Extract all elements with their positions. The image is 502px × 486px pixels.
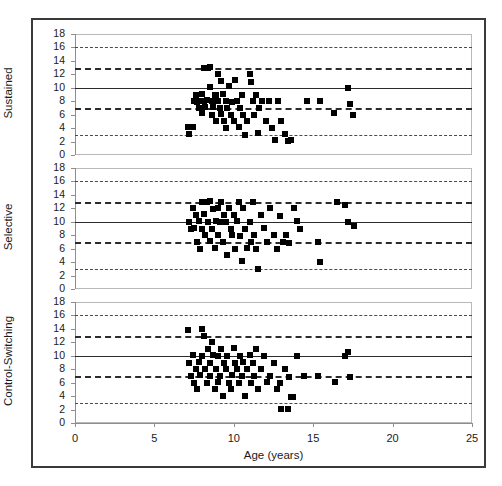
data-point <box>213 118 219 124</box>
data-point <box>290 394 296 400</box>
data-point <box>207 238 213 244</box>
y-tick-label: 16 <box>43 175 65 185</box>
data-point <box>239 258 245 264</box>
data-point <box>266 98 272 104</box>
x-axis-title: Age (years) <box>174 449 374 461</box>
y-axis-line-2 <box>75 168 76 289</box>
data-point <box>201 211 207 217</box>
data-point <box>263 118 269 124</box>
y-tick-label: 10 <box>43 216 65 226</box>
data-point <box>236 199 242 205</box>
data-point <box>204 380 210 386</box>
data-point <box>301 373 307 379</box>
data-point <box>332 379 338 385</box>
data-point <box>286 240 292 246</box>
data-point <box>224 105 230 111</box>
y-tick-label: 0 <box>43 283 65 293</box>
data-point <box>342 202 348 208</box>
y-tick <box>71 115 75 116</box>
y-tick <box>71 235 75 236</box>
data-point <box>215 205 221 211</box>
data-point <box>248 79 254 85</box>
data-point <box>250 98 256 104</box>
data-point <box>317 259 323 265</box>
data-point <box>215 98 221 104</box>
y-tick <box>71 34 75 35</box>
reference-line-3 <box>75 269 472 270</box>
data-point <box>294 353 300 359</box>
panel-label-1: Sustained <box>2 18 14 168</box>
data-point <box>199 110 205 116</box>
reference-line-10 <box>75 222 472 223</box>
y-tick-label: 14 <box>43 55 65 65</box>
data-point <box>234 218 240 224</box>
data-point <box>215 379 221 385</box>
data-point <box>223 219 229 225</box>
reference-line-7 <box>75 242 472 244</box>
y-tick <box>71 369 75 370</box>
y-tick <box>71 396 75 397</box>
x-tick-label: 5 <box>139 433 169 444</box>
data-point <box>226 205 232 211</box>
data-point <box>228 112 234 118</box>
data-point <box>218 199 224 205</box>
y-tick-label: 18 <box>43 296 65 306</box>
data-point <box>212 386 218 392</box>
data-point <box>288 137 294 143</box>
data-point <box>256 105 262 111</box>
data-point <box>240 359 246 365</box>
data-point <box>212 245 218 251</box>
reference-line-13 <box>75 336 472 338</box>
data-point <box>274 246 280 252</box>
data-point <box>282 366 288 372</box>
y-tick <box>71 155 75 156</box>
y-tick <box>71 249 75 250</box>
y-tick-label: 14 <box>43 323 65 333</box>
data-point <box>234 366 240 372</box>
reference-line-16 <box>75 47 472 48</box>
data-point <box>190 205 196 211</box>
y-tick-label: 12 <box>43 68 65 78</box>
data-point <box>215 232 221 238</box>
y-tick-label: 12 <box>43 336 65 346</box>
x-tick-label: 10 <box>219 433 249 444</box>
data-point <box>286 374 292 380</box>
x-tick <box>154 423 155 427</box>
data-point <box>202 104 208 110</box>
data-point <box>345 219 351 225</box>
data-point <box>350 112 356 118</box>
reference-line-10 <box>75 356 472 357</box>
data-point <box>331 110 337 116</box>
data-point <box>223 366 229 372</box>
data-point <box>201 333 207 339</box>
figure-scatter-panels: 024681012141618Sustained024681012141618S… <box>0 0 502 486</box>
data-point <box>315 373 321 379</box>
y-tick <box>71 302 75 303</box>
data-point <box>196 218 202 224</box>
data-point <box>218 111 224 117</box>
reference-line-16 <box>75 181 472 182</box>
data-point <box>258 366 264 372</box>
data-point <box>253 246 259 252</box>
data-point <box>258 212 264 218</box>
data-point <box>218 78 224 84</box>
y-tick-label: 6 <box>43 377 65 387</box>
x-tick-label: 25 <box>457 433 487 444</box>
data-point <box>351 223 357 229</box>
y-tick-label: 6 <box>43 243 65 253</box>
panel-plot-area-2 <box>75 168 472 289</box>
reference-line-10 <box>75 88 472 89</box>
data-point <box>205 219 211 225</box>
data-point <box>213 366 219 372</box>
data-point <box>234 98 240 104</box>
x-tick <box>472 423 473 427</box>
data-point <box>253 346 259 352</box>
data-point <box>199 353 205 359</box>
data-point <box>255 386 261 392</box>
data-point <box>207 198 213 204</box>
data-point <box>215 353 221 359</box>
data-point <box>209 112 215 118</box>
y-tick-label: 16 <box>43 309 65 319</box>
data-point <box>347 374 353 380</box>
y-tick-label: 0 <box>43 149 65 159</box>
